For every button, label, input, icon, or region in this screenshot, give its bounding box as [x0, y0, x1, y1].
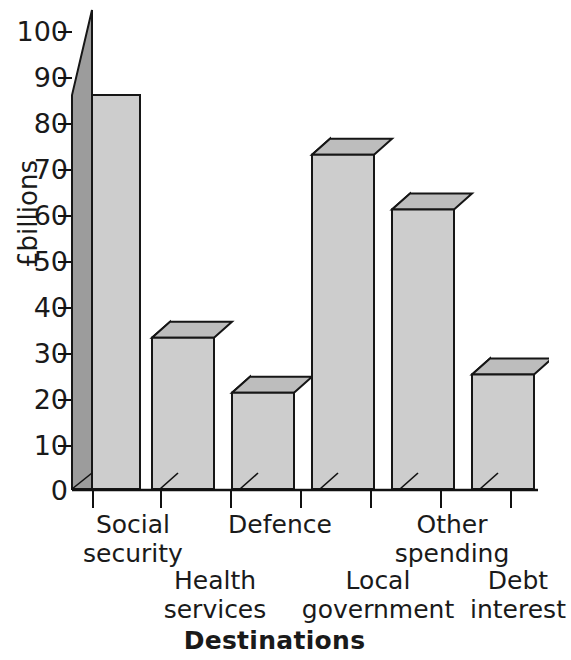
bar-defence	[232, 377, 312, 489]
x-category-line-1: Other	[372, 510, 532, 539]
x-category-line-1: Social	[58, 510, 208, 539]
x-category-line-1: Health	[140, 566, 290, 595]
x-category-line-2: government	[288, 595, 468, 624]
x-tick-mark-7	[510, 491, 512, 508]
x-tick-mark-5	[370, 491, 372, 508]
bar-social-security	[72, 10, 160, 489]
bar-health-services	[152, 322, 232, 489]
bar-debt-interest	[472, 359, 549, 490]
x-category-line-2: interest	[448, 595, 571, 624]
bar-local-government	[312, 139, 392, 489]
x-category-line-1: Debt	[448, 566, 571, 595]
x-tick-mark-1	[92, 491, 94, 508]
x-tick-mark-3	[230, 491, 232, 508]
x-category-line-2: spending	[372, 539, 532, 568]
x-axis-title: Destinations	[0, 626, 549, 655]
x-category-line-1: Local	[288, 566, 468, 595]
x-category-label-debt-interest: Debt interest	[448, 566, 571, 624]
x-category-line-2: security	[58, 539, 208, 568]
x-category-label-social-security: Social security	[58, 510, 208, 568]
x-category-label-defence: Defence	[215, 510, 345, 539]
x-tick-mark-4	[300, 491, 302, 508]
x-category-label-other-spending: Other spending	[372, 510, 532, 568]
x-category-line-2: services	[140, 595, 290, 624]
x-category-label-health-services: Health services	[140, 566, 290, 624]
x-tick-mark-6	[440, 491, 442, 508]
bar-other-spending	[392, 194, 472, 489]
x-category-line-1: Defence	[215, 510, 345, 539]
x-tick-mark-2	[160, 491, 162, 508]
x-category-label-local-government: Local government	[288, 566, 468, 624]
